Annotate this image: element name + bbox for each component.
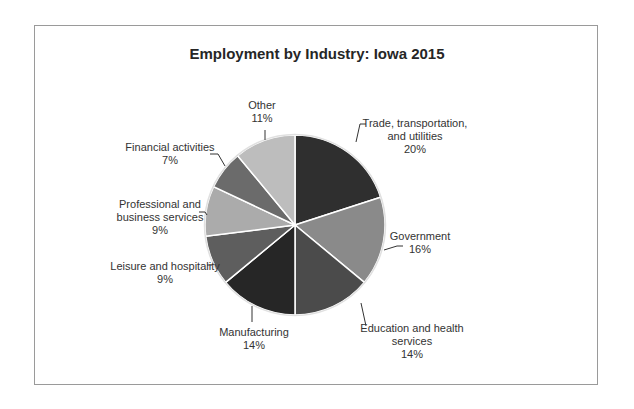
data-label: Leisure and hospitality9% [110,260,220,285]
data-label: Manufacturing14% [219,326,289,351]
leader-line [384,246,403,250]
data-label: Financial activities7% [125,141,215,166]
data-label: Education and healthservices14% [360,322,463,360]
data-label: Trade, transportation,and utilities20% [363,117,468,155]
pie-chart: Trade, transportation,and utilities20%Go… [0,0,634,409]
leader-line [210,154,225,166]
pie-slices [205,135,386,316]
data-label: Other11% [248,99,276,124]
data-label: Professional andbusiness services9% [117,198,204,236]
data-label: Government16% [390,230,451,255]
